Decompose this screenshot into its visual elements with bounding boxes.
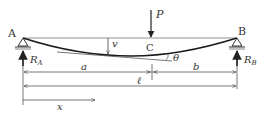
label-position-x: x (57, 101, 63, 112)
label-reaction-b: RB (243, 54, 257, 67)
tangent-line (57, 52, 172, 61)
label-reaction-a: RA (29, 54, 43, 67)
slope-angle-arc (166, 54, 168, 60)
label-load: P (155, 8, 164, 21)
deflected-beam (23, 38, 237, 56)
label-dim-b: b (193, 61, 199, 72)
label-deflection: v (112, 38, 118, 49)
label-point-c: C (146, 42, 154, 53)
label-dim-a: a (81, 61, 87, 72)
label-slope: θ (173, 52, 179, 63)
label-support-a: A (7, 27, 17, 40)
label-support-b: B (238, 25, 246, 38)
label-span: ℓ (137, 75, 141, 86)
beam-diagram: A B P C v θ RA RB a b ℓ x (0, 0, 264, 114)
